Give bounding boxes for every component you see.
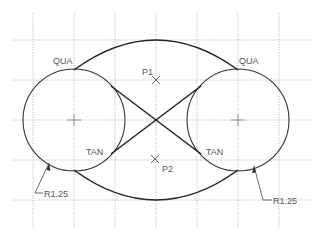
- tan-right-label: TAN: [206, 147, 223, 157]
- qua-right-label: QUA: [239, 56, 259, 66]
- drawing-svg: QUA QUA TAN TAN P1 P2 R1.25 R1.25: [0, 0, 324, 236]
- radius-left-label: R1.25: [44, 189, 68, 199]
- p2-label: P2: [162, 164, 173, 174]
- p2-marker-icon[interactable]: [151, 155, 159, 163]
- tan-left-label: TAN: [86, 147, 103, 157]
- right-radius-leader: [252, 166, 272, 200]
- left-center-mark: [67, 114, 81, 126]
- p1-label: P1: [142, 67, 153, 77]
- right-center-mark: [231, 114, 245, 126]
- qua-left-label: QUA: [53, 56, 73, 66]
- radius-right-label: R1.25: [273, 196, 297, 206]
- cad-drawing-canvas[interactable]: QUA QUA TAN TAN P1 P2 R1.25 R1.25: [0, 0, 324, 236]
- arrowhead-icon: [252, 166, 256, 173]
